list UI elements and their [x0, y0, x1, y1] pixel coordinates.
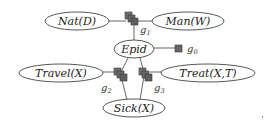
node-travel: Travel(X)	[19, 64, 103, 82]
edge-g3-sick	[140, 76, 144, 100]
node-treat: Treat(X,T)	[161, 64, 255, 82]
node-epid-label: Epid	[120, 43, 147, 56]
node-man: Man(W)	[152, 12, 224, 30]
node-nat-label: Nat(D)	[57, 15, 96, 28]
factor-square-icon	[175, 45, 182, 52]
factor-g1-label: g1	[140, 24, 151, 37]
factor-g2-label: g2	[101, 82, 112, 95]
factor-graph-diagram: Nat(D) Man(W) Epid Travel(X) Treat(X,T) …	[0, 0, 271, 127]
factor-g3-label: g3	[154, 82, 165, 95]
node-epid: Epid	[114, 40, 154, 58]
node-sick-label: Sick(X)	[114, 102, 154, 115]
node-treat-label: Treat(X,T)	[179, 67, 236, 80]
factor-square-icon	[145, 74, 152, 81]
factor-g0: g0	[175, 43, 198, 56]
factor-square-icon	[131, 18, 138, 25]
factor-g1: g1	[125, 12, 151, 37]
node-sick: Sick(X)	[103, 99, 165, 117]
node-man-label: Man(W)	[165, 15, 211, 28]
factor-square-icon	[120, 74, 127, 81]
node-nat: Nat(D)	[45, 12, 109, 30]
edge-epid-g2	[121, 58, 128, 72]
factor-g0-label: g0	[187, 43, 198, 56]
node-travel-label: Travel(X)	[35, 67, 87, 80]
artifact-dot	[262, 116, 263, 118]
